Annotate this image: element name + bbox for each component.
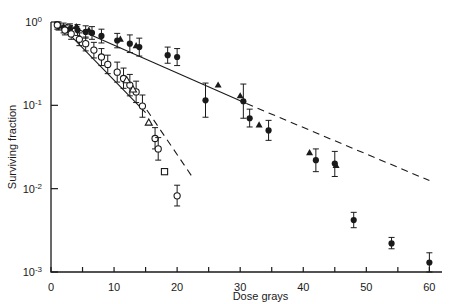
data-point-open-circle [98, 54, 104, 60]
data-point-filled-circle [265, 127, 271, 133]
survival-curve-plot: 0102030405060Dose grays10010-110-210-3Su… [0, 0, 452, 304]
data-point-open-circle [114, 69, 120, 75]
sensitive-fit-dashed-extrapolation [147, 110, 193, 178]
data-point-filled-triangle [256, 121, 263, 127]
data-point-filled-circle [351, 217, 357, 223]
figure-root: 0102030405060Dose grays10010-110-210-3Su… [0, 0, 452, 304]
data-point-filled-circle [247, 115, 253, 121]
data-point-filled-circle [174, 54, 180, 60]
data-point-open-circle [83, 41, 89, 47]
data-point-open-circle [91, 47, 97, 53]
data-point-open-circle [76, 36, 82, 42]
data-point-filled-circle [240, 98, 246, 104]
y-tick-label: 100 [25, 15, 42, 28]
data-point-filled-circle [202, 97, 208, 103]
x-tick-label: 60 [423, 281, 435, 293]
data-point-open-square [161, 169, 167, 175]
resistant-fit-solid [70, 26, 247, 104]
data-point-open-circle [174, 193, 180, 199]
x-tick-label: 40 [297, 281, 309, 293]
data-point-filled-circle [388, 240, 394, 246]
data-point-filled-triangle [237, 92, 244, 98]
data-point-open-circle [139, 103, 145, 109]
data-point-filled-circle [98, 33, 104, 39]
axis-spines [51, 22, 442, 272]
data-point-filled-circle [127, 41, 133, 47]
x-tick-label: 20 [171, 281, 183, 293]
y-tick-label: 10-2 [23, 182, 43, 195]
data-point-filled-triangle [215, 81, 222, 87]
data-point-open-circle [54, 22, 60, 28]
x-tick-label: 0 [48, 281, 54, 293]
resistant-fit-dashed-extrapolation [247, 104, 430, 181]
x-tick-label: 50 [360, 281, 372, 293]
y-axis-label: Surviving fraction [6, 105, 18, 189]
data-point-open-circle [62, 27, 68, 33]
x-tick-label: 10 [108, 281, 120, 293]
data-point-open-circle [105, 61, 111, 67]
data-point-open-circle [68, 31, 74, 37]
y-tick-label: 10-3 [23, 265, 43, 278]
data-point-open-circle [152, 135, 158, 141]
data-point-open-circle [155, 146, 161, 152]
data-point-open-triangle [145, 119, 152, 125]
y-tick-label: 10-1 [23, 98, 43, 111]
data-point-filled-circle [426, 259, 432, 265]
x-axis-label: Dose grays [233, 290, 289, 302]
data-point-filled-circle [313, 157, 319, 163]
data-point-filled-circle [165, 52, 171, 58]
data-point-filled-triangle [306, 149, 313, 155]
